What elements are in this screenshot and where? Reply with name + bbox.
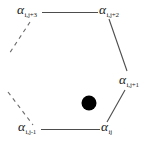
center-dot-marker (82, 96, 97, 111)
vertex-label-top-left: αi,j+3 (17, 3, 37, 19)
edge-upper-left-dashed (9, 22, 30, 54)
vertex-label-top-right: αi,j+2 (99, 3, 119, 19)
vertex-label-middle-right: αi,j+1 (119, 73, 139, 89)
alpha-symbol: α (17, 2, 24, 17)
alpha-subscript: i,j+1 (127, 81, 139, 89)
vertex-label-bottom-right: αij (101, 120, 112, 136)
alpha-symbol: α (101, 119, 108, 134)
edge-lower-right (107, 90, 125, 122)
alpha-symbol: α (119, 72, 126, 87)
diagram-canvas: αi,j+3 αi,j+2 αi,j+1 αi,j-1 αij (0, 0, 163, 148)
alpha-subscript: ij (109, 128, 113, 136)
alpha-symbol: α (99, 2, 106, 17)
edge-upper-right (109, 19, 127, 71)
alpha-subscript: i,j+3 (25, 11, 37, 19)
alpha-subscript: i,j+2 (107, 11, 119, 19)
vertex-label-bottom-left: αi,j-1 (18, 120, 36, 136)
alpha-subscript: i,j-1 (26, 128, 36, 136)
alpha-symbol: α (18, 119, 25, 134)
